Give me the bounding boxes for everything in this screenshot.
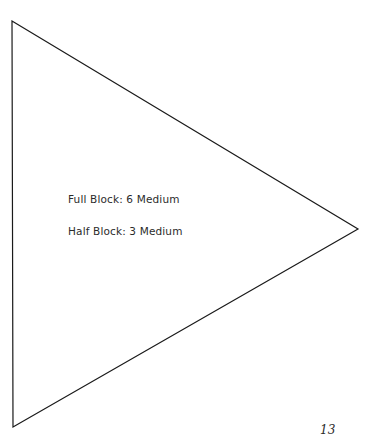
page-number: 13	[320, 424, 360, 437]
document-page: Full Block: 6 Medium Half Block: 3 Mediu…	[0, 0, 368, 440]
block-label-group: Full Block: 6 Medium Half Block: 3 Mediu…	[68, 194, 248, 236]
half-block-label: Half Block: 3 Medium	[68, 226, 248, 237]
full-block-label: Full Block: 6 Medium	[68, 194, 248, 205]
